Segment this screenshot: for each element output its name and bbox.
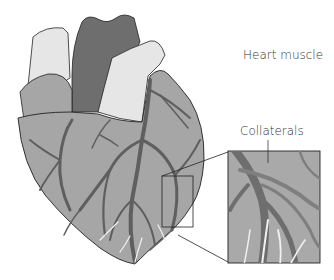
collaterals-label: Collaterals [240,124,304,138]
connector-line-bottom [178,235,228,262]
heart-illustration [0,0,334,280]
heart-diagram: Heart muscle Collaterals [0,0,334,280]
heart-muscle-label: Heart muscle [243,48,323,62]
collaterals-inset [228,150,322,265]
